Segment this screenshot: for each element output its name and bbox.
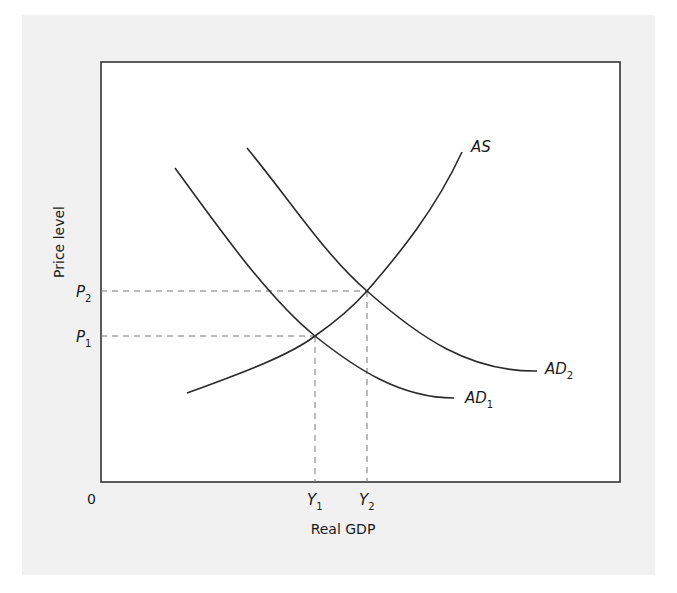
origin-label: 0: [87, 491, 96, 507]
x-axis-title: Real GDP: [311, 521, 376, 537]
y1-label: Y1: [307, 491, 323, 512]
y-axis-title: Price level: [51, 206, 67, 278]
p2-label: P2: [76, 283, 91, 304]
ad-as-chart: AS AD2 AD1 P2 P1 Y1 Y2 0 Real GDP Price …: [0, 0, 677, 593]
y2-label: Y2: [359, 491, 375, 512]
as-label: AS: [470, 138, 491, 156]
plot-frame: [101, 62, 620, 482]
p1-label: P1: [76, 328, 91, 349]
